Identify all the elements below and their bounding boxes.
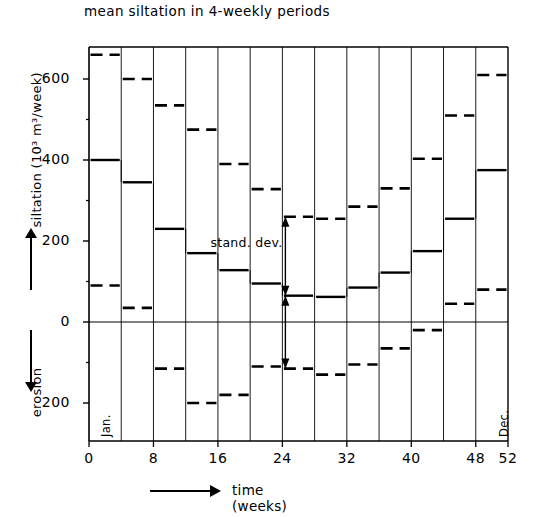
x-tick-label-0: 0 [74,450,104,466]
stand-dev-annotation-label: stand. dev. [210,235,282,250]
y-tick-label-4: 200 [26,394,70,410]
y-tick-label-2: 200 [26,232,70,248]
month-label-dec: Dec. [497,410,511,437]
x-tick-label-4: 32 [332,450,362,466]
month-label-jan: Jan. [99,414,113,437]
siltation-chart-figure: mean siltation in 4-weekly periods silta… [0,0,548,517]
y-tick-label-1: 400 [26,151,70,167]
x-tick-label-1: 8 [138,450,168,466]
y-tick-label-3: 0 [26,313,70,329]
x-tick-label-2: 16 [203,450,233,466]
x-tick-label-6: 48 [461,450,491,466]
x-tick-label-7: 52 [493,450,523,466]
x-tick-label-3: 24 [267,450,297,466]
y-tick-label-0: 600 [26,70,70,86]
plot-area [0,0,548,517]
x-tick-label-5: 40 [396,450,426,466]
